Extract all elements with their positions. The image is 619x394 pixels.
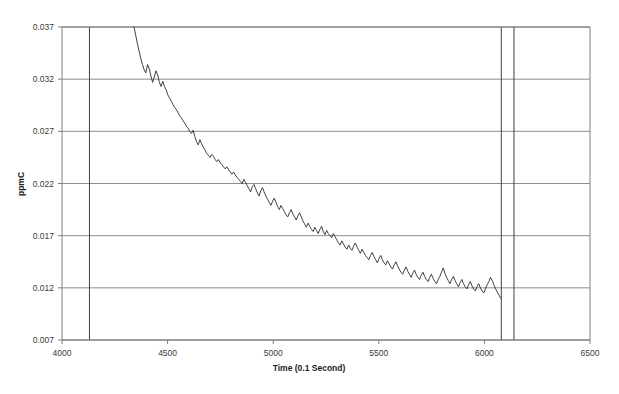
- chart-background: [0, 0, 619, 394]
- y-tick-label: 0.032: [33, 74, 55, 84]
- x-tick-label: 5500: [369, 348, 388, 358]
- x-tick-label: 4500: [158, 348, 177, 358]
- y-tick-label: 0.037: [33, 22, 55, 32]
- y-axis-title: ppmC: [16, 172, 26, 196]
- y-tick-label: 0.022: [33, 179, 55, 189]
- x-axis-title: Time (0.1 Second): [273, 363, 346, 373]
- chart-container: 0.0070.0120.0170.0220.0270.0320.037 4000…: [0, 0, 619, 394]
- x-tick-label: 5000: [264, 348, 283, 358]
- y-tick-label: 0.027: [33, 126, 55, 136]
- y-tick-label: 0.012: [33, 283, 55, 293]
- x-tick-label: 4000: [53, 348, 72, 358]
- y-tick-label: 0.007: [33, 335, 55, 345]
- y-tick-label: 0.017: [33, 231, 55, 241]
- x-tick-label: 6500: [581, 348, 600, 358]
- x-tick-label: 6000: [475, 348, 494, 358]
- line-chart: 0.0070.0120.0170.0220.0270.0320.037 4000…: [0, 0, 619, 394]
